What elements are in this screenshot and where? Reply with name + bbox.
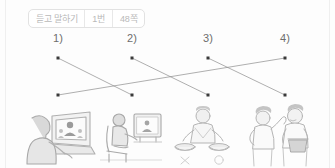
matching-exercise: 1) 2) 3) 4)	[0, 32, 335, 102]
match-dot-bottom-2[interactable]	[131, 94, 134, 97]
option-label-1: 1)	[53, 32, 63, 44]
question-meta-badge: 듣고 말하기 1번 48쪽	[28, 9, 145, 28]
match-dot-bottom-1[interactable]	[57, 94, 60, 97]
illustration-person-cooking-two-pans-choice	[172, 102, 234, 168]
illustration-strip	[0, 102, 335, 168]
badge-question-number: 1번	[84, 10, 112, 27]
badge-activity-type: 듣고 말하기	[29, 10, 84, 27]
illustration-person-watching-laptop-video-call	[18, 102, 96, 168]
illustration-two-people-one-holding-container	[243, 102, 319, 168]
badge-page-number: 48쪽	[112, 10, 144, 27]
option-label-3: 3)	[203, 32, 213, 44]
match-dot-top-1[interactable]	[57, 57, 60, 60]
match-dot-bottom-3[interactable]	[207, 94, 210, 97]
option-label-2: 2)	[127, 32, 137, 44]
illustration-person-seated-watching-television	[100, 102, 162, 168]
option-label-4: 4)	[280, 32, 290, 44]
connection-line-3[interactable]	[208, 58, 285, 95]
connection-line-1[interactable]	[58, 58, 132, 95]
worksheet-page: 듣고 말하기 1번 48쪽 1) 2) 3) 4)	[0, 0, 335, 168]
match-dot-top-3[interactable]	[207, 57, 210, 60]
connection-line-4[interactable]	[58, 58, 285, 95]
match-dot-top-4[interactable]	[284, 57, 287, 60]
match-dot-top-2[interactable]	[131, 57, 134, 60]
match-dot-bottom-4[interactable]	[284, 94, 287, 97]
